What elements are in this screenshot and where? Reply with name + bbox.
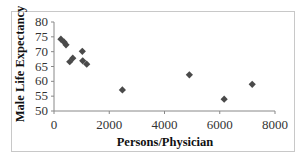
y-tick-label: 80 (35, 14, 48, 29)
y-tick-label: 75 (35, 29, 48, 44)
y-tick-label: 60 (35, 73, 48, 88)
x-axis-title: Persons/Physician (117, 135, 214, 149)
data-points (57, 36, 256, 103)
y-tick-label: 55 (35, 88, 48, 103)
data-point-diamond (79, 48, 86, 55)
x-tick-label: 4000 (152, 117, 178, 132)
data-point-diamond (249, 81, 256, 88)
x-axis: 02000400060008000 (51, 111, 288, 132)
x-tick-label: 8000 (262, 117, 288, 132)
x-tick-label: 2000 (96, 117, 122, 132)
data-point-diamond (119, 86, 126, 93)
data-point-diamond (221, 96, 228, 103)
y-tick-label: 50 (35, 103, 48, 118)
scatter-chart: 50556065707580 02000400060008000 Persons… (0, 0, 304, 164)
y-axis: 50556065707580 (35, 14, 54, 118)
x-tick-label: 0 (51, 117, 58, 132)
y-tick-label: 70 (35, 44, 48, 59)
y-axis-title: Male Life Expectancy (13, 5, 27, 122)
y-tick-label: 65 (35, 59, 48, 74)
x-tick-label: 6000 (207, 117, 233, 132)
data-point-diamond (186, 71, 193, 78)
